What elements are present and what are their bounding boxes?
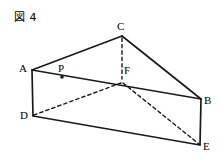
edge-ab <box>32 70 201 99</box>
vertex-label-a: A <box>19 63 27 74</box>
vertex-label-d: D <box>20 110 28 121</box>
edge-ac <box>32 36 122 70</box>
edge-be <box>200 99 201 145</box>
edge-layer <box>32 36 201 145</box>
edge-de <box>33 116 200 145</box>
vertex-dot-layer <box>60 75 64 79</box>
vertex-label-c: C <box>117 21 124 32</box>
prism-diagram <box>0 0 221 163</box>
point-dot-p <box>60 75 64 79</box>
vertex-label-b: B <box>204 95 211 106</box>
vertex-label-e: E <box>203 141 210 152</box>
figure-container: 図 4 ABCDEFP <box>0 0 221 163</box>
edge-fd <box>34 83 121 115</box>
edge-ad <box>32 70 33 116</box>
vertex-label-f: F <box>124 65 130 76</box>
vertex-label-p: P <box>58 63 64 74</box>
edge-cb <box>122 36 201 99</box>
